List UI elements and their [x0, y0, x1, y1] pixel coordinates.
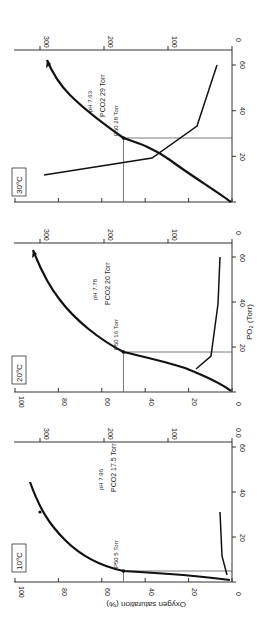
po2-ticks-30c: 20 40 60 [232, 61, 246, 202]
o2-ticks-10c: 0 20 40 60 80 100 [15, 578, 242, 598]
vent-tick-200-30c: 200 [107, 36, 114, 48]
vent-tick-200-20c: 200 [107, 229, 114, 241]
vent-tick-100-10c: 100 [171, 428, 178, 440]
o2-tick-40-20c: 40 [148, 398, 155, 406]
p50-point-30c [122, 136, 126, 140]
o2-tick-60-20c: 60 [104, 398, 111, 406]
o2-tick-100-10c: 100 [18, 586, 25, 598]
o2-curve-10c [30, 482, 230, 580]
vent-tick-0-30c: 0 [235, 38, 242, 42]
po2-tick-60-20c: 60 [239, 254, 246, 262]
o2-ticks-20c: 0 20 40 60 80 100 [15, 388, 242, 408]
ph-label-30c: pH 7.63 [87, 90, 93, 112]
po2-axis-label: PO₂ (Torr) [245, 304, 254, 340]
po2-tick-20-10c: 20 [239, 534, 246, 542]
p50-point-20c [122, 350, 126, 354]
o2-tick-80-20c: 80 [61, 398, 68, 406]
o2-tick-20-20c: 20 [191, 398, 198, 406]
o2-tick-0-20c: 0 [235, 402, 242, 406]
vent-ticks-20c: 0 100 200 300 [40, 229, 242, 243]
panel-30c: 0 100 200 300 20 40 60 Ventilation (ml B… [12, 0, 246, 202]
panel-title-20c: 20°C [15, 364, 24, 382]
po2-tick-40-10c: 40 [239, 489, 246, 497]
po2-ticks-10c: 20 40 60 [232, 444, 246, 582]
vent-tick-200-10c: 200 [107, 428, 114, 440]
vent-tick-100-20c: 100 [171, 229, 178, 241]
o2-tick-20-10c: 20 [191, 588, 198, 596]
po2-tick-40-30c: 40 [239, 107, 246, 115]
pco2-label-30c: PCO2 29 Torr [99, 74, 106, 117]
o2-curve-20c [33, 250, 231, 391]
po2-tick-60-30c: 60 [239, 61, 246, 69]
vent-tick-0-10c: 0.0 [235, 428, 242, 438]
vent-tick-0-20c: 0 [235, 231, 242, 235]
ph-label-10c: pH 7.96 [98, 468, 104, 490]
o2-curve-30c [47, 60, 231, 202]
panel-20c: 0 20 40 60 80 100 0 100 200 300 20 40 60… [12, 229, 254, 408]
ph-label-20c: pH 7.78 [92, 278, 98, 300]
vent-tick-300-10c: 300 [43, 428, 50, 440]
vent-ticks-30c: 0 100 200 300 [40, 36, 242, 50]
vent-curve-10c [220, 512, 227, 575]
o2-axis-label: Oxygen saturation (%) [106, 600, 186, 609]
chart-canvas: 0 100 200 300 20 40 60 Ventilation (ml B… [0, 0, 273, 627]
panel-title-30c: 30°C [15, 176, 24, 194]
p50-label-30c: P50 28 Torr [113, 105, 119, 136]
o2-tick-60-10c: 60 [104, 588, 111, 596]
o2-tick-40-10c: 40 [148, 588, 155, 596]
po2-ticks-20c: 20 40 60 [232, 254, 246, 392]
po2-tick-60-10c: 60 [239, 444, 246, 452]
vent-tick-300-20c: 300 [43, 229, 50, 241]
vent-ticks-10c: 0.0 100 200 300 [40, 428, 242, 442]
p50-label-10c: P50 5 Torr [113, 540, 119, 568]
o2-tick-0-10c: 0 [235, 592, 242, 596]
p50-label-20c: P50 16 Torr [113, 319, 119, 350]
figure-rotated: 0 100 200 300 20 40 60 Ventilation (ml B… [0, 0, 273, 627]
o2-tick-100-20c: 100 [18, 396, 25, 408]
marker-10c [38, 510, 41, 513]
po2-tick-20-20c: 20 [239, 344, 246, 352]
o2-tick-80-10c: 80 [61, 588, 68, 596]
p50-point-10c [122, 569, 126, 573]
vent-tick-100-30c: 100 [171, 36, 178, 48]
pco2-label-10c: PCO2 17.5 Torr [110, 443, 117, 492]
pco2-label-20c: PCO2 20 Torr [104, 262, 111, 305]
po2-tick-20-30c: 20 [239, 153, 246, 161]
panel-title-10c: 10°C [15, 552, 24, 570]
vent-curve-30c [44, 65, 217, 175]
vent-tick-300-30c: 300 [43, 36, 50, 48]
panel-10c: 0 20 40 60 80 100 0.0 100 200 300 20 40 … [12, 428, 246, 609]
